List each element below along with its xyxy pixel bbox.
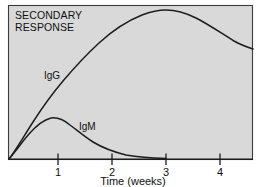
figure-container: 1 2 3 4 Time (weeks) SECONDARY RESPONSE … (0, 0, 265, 187)
secondary-response-chart: 1 2 3 4 Time (weeks) SECONDARY RESPONSE … (0, 0, 265, 187)
x-tick-label-1: 1 (55, 166, 61, 178)
chart-title-line-2: RESPONSE (15, 21, 74, 33)
igg-series-label: IgG (44, 70, 60, 81)
x-tick-label-4: 4 (217, 166, 223, 178)
chart-title-line-1: SECONDARY (15, 9, 82, 21)
x-axis-title: Time (weeks) (100, 175, 166, 187)
igm-series-label: IgM (79, 121, 96, 132)
